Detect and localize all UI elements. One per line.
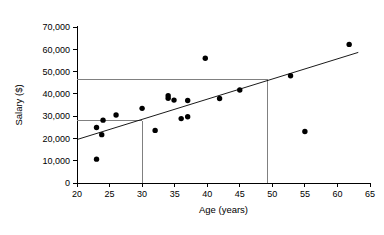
y-tick-label: 20,000 xyxy=(42,134,70,144)
data-points xyxy=(94,42,352,162)
data-point xyxy=(165,96,170,101)
x-tick-label: 35 xyxy=(170,189,180,199)
data-point xyxy=(346,42,351,47)
data-point xyxy=(302,129,307,134)
data-point xyxy=(217,96,222,101)
data-point xyxy=(288,73,293,78)
chart-figure: 010,00020,00030,00040,00050,00060,00070,… xyxy=(0,0,384,235)
data-point xyxy=(113,112,118,117)
x-tick-label: 65 xyxy=(365,189,375,199)
scatter-plot: 010,00020,00030,00040,00050,00060,00070,… xyxy=(0,0,384,235)
regression-line xyxy=(77,52,358,139)
data-point xyxy=(94,156,99,161)
data-point xyxy=(185,98,190,103)
y-tick-label: 0 xyxy=(65,178,70,188)
x-tick-label: 40 xyxy=(202,189,212,199)
data-point xyxy=(100,117,105,122)
y-tick-label: 40,000 xyxy=(42,89,70,99)
data-point xyxy=(94,125,99,130)
x-axis-title: Age (years) xyxy=(199,204,248,215)
data-point xyxy=(237,87,242,92)
data-point xyxy=(171,97,176,102)
axis-labels: 010,00020,00030,00040,00050,00060,00070,… xyxy=(13,22,375,215)
reference-lines xyxy=(77,79,268,183)
y-tick-label: 70,000 xyxy=(42,22,70,32)
data-point xyxy=(139,106,144,111)
y-tick-label: 50,000 xyxy=(42,67,70,77)
data-point xyxy=(185,114,190,119)
x-tick-label: 50 xyxy=(267,189,277,199)
y-tick-label: 30,000 xyxy=(42,111,70,121)
x-tick-label: 45 xyxy=(235,189,245,199)
y-axis-title: Salary ($) xyxy=(13,84,24,125)
data-point xyxy=(99,132,104,137)
axes xyxy=(73,26,370,187)
data-point xyxy=(178,116,183,121)
x-tick-label: 55 xyxy=(300,189,310,199)
data-point xyxy=(152,128,157,133)
x-tick-label: 25 xyxy=(105,189,115,199)
x-tick-label: 60 xyxy=(332,189,342,199)
trend-line xyxy=(77,52,358,139)
y-tick-label: 10,000 xyxy=(42,156,70,166)
y-tick-label: 60,000 xyxy=(42,45,70,55)
data-point xyxy=(203,56,208,61)
x-tick-label: 30 xyxy=(137,189,147,199)
x-tick-label: 20 xyxy=(72,189,82,199)
